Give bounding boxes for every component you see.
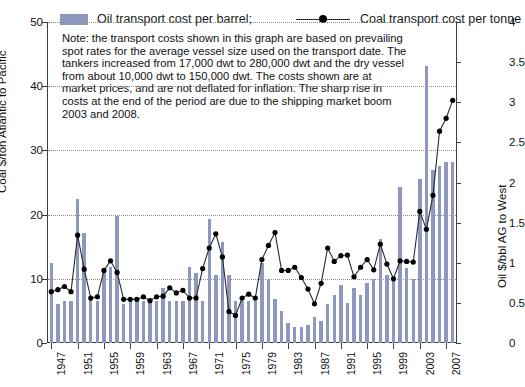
x-axis-tick-label: 1999 xyxy=(397,352,409,375)
data-point xyxy=(62,284,67,289)
data-point xyxy=(167,285,172,290)
data-point xyxy=(351,274,356,279)
data-point xyxy=(213,231,218,236)
data-point xyxy=(365,257,370,262)
x-axis-tick-label: 1967 xyxy=(187,352,199,375)
x-axis-tick xyxy=(367,343,368,349)
data-point xyxy=(437,129,442,134)
data-point xyxy=(305,286,310,291)
y-axis-left-tick-label: 20 xyxy=(30,209,43,221)
x-axis-tick-label: 1991 xyxy=(345,352,357,375)
data-point xyxy=(134,297,139,302)
data-point xyxy=(220,254,225,259)
data-point xyxy=(312,301,317,306)
data-point xyxy=(272,230,277,235)
data-point xyxy=(187,295,192,300)
data-point xyxy=(108,258,113,263)
data-point xyxy=(417,209,422,214)
data-point xyxy=(450,98,455,103)
x-axis-tick-label: 1951 xyxy=(82,352,94,375)
y-axis-right-tick-label: 2 xyxy=(509,177,515,189)
x-axis-tick-label: 1983 xyxy=(292,352,304,375)
x-axis-tick xyxy=(104,343,105,349)
x-axis-tick-label: 1995 xyxy=(371,352,383,375)
data-point xyxy=(259,257,264,262)
x-axis-tick xyxy=(262,343,263,349)
x-axis-tick xyxy=(288,343,289,349)
data-point xyxy=(115,270,120,275)
x-axis-tick xyxy=(209,343,210,349)
y-axis-left-tick-label: 0 xyxy=(37,337,43,349)
data-point xyxy=(68,289,73,294)
y-axis-right-tick-label: 0 xyxy=(509,337,515,349)
data-point xyxy=(279,268,284,273)
data-point xyxy=(325,245,330,250)
x-axis-tick xyxy=(157,343,158,349)
data-point xyxy=(253,295,258,300)
data-point xyxy=(286,268,291,273)
data-point xyxy=(404,259,409,264)
x-axis-tick xyxy=(341,343,342,349)
y-axis-left-tick-label: 30 xyxy=(30,144,43,156)
data-point xyxy=(75,233,80,238)
x-axis-tick-label: 2007 xyxy=(450,352,462,375)
y-axis-left-title: Coal $/ton Atlantic to Pacific xyxy=(0,50,8,193)
data-point xyxy=(391,276,396,281)
coal-line-path xyxy=(51,100,452,315)
x-axis-tick xyxy=(446,343,447,349)
data-point xyxy=(200,266,205,271)
x-axis-tick xyxy=(51,343,52,349)
y-axis-right-tick-label: 3.5 xyxy=(509,56,525,68)
data-point xyxy=(207,245,212,250)
data-point xyxy=(411,260,416,265)
y-axis-right-tick-label: 2.5 xyxy=(509,136,525,148)
line-series-coal-transport-cost xyxy=(47,22,457,343)
y-axis-right-tick-label: 4 xyxy=(509,16,515,28)
data-point xyxy=(193,295,198,300)
data-point xyxy=(345,252,350,257)
data-point xyxy=(233,313,238,318)
data-point xyxy=(397,258,402,263)
y-axis-left-tick-label: 40 xyxy=(30,80,43,92)
data-point xyxy=(128,297,133,302)
x-axis-tick-label: 2003 xyxy=(424,352,436,375)
data-point xyxy=(246,292,251,297)
y-axis-right-tick xyxy=(456,343,461,344)
coal-line-markers xyxy=(49,98,456,318)
data-point xyxy=(49,289,54,294)
x-axis-tick-label: 1979 xyxy=(266,352,278,375)
data-point xyxy=(240,295,245,300)
data-point xyxy=(378,242,383,247)
data-point xyxy=(444,116,449,121)
x-axis-tick xyxy=(130,343,131,349)
data-point xyxy=(55,287,60,292)
data-point xyxy=(95,294,100,299)
data-point xyxy=(101,268,106,273)
data-point xyxy=(82,267,87,272)
data-point xyxy=(141,294,146,299)
y-axis-left-tick-label: 50 xyxy=(30,16,43,28)
y-axis-right-title: Oil $/bbl AG to West xyxy=(496,185,508,288)
plot-area: 01020304050 00.511.522.533.54 1947195119… xyxy=(47,22,457,343)
data-point xyxy=(174,290,179,295)
x-axis-tick-label: 1947 xyxy=(55,352,67,375)
data-point xyxy=(88,295,93,300)
y-axis-right-tick-label: 0.5 xyxy=(509,297,525,309)
data-point xyxy=(430,193,435,198)
data-point xyxy=(299,275,304,280)
data-point xyxy=(371,267,376,272)
x-axis-tick xyxy=(393,343,394,349)
data-point xyxy=(358,265,363,270)
y-axis-right-tick-label: 3 xyxy=(509,96,515,108)
data-point xyxy=(384,261,389,266)
x-axis-tick xyxy=(183,343,184,349)
data-point xyxy=(424,227,429,232)
data-point xyxy=(154,294,159,299)
x-axis-tick-label: 1955 xyxy=(108,352,120,375)
data-point xyxy=(180,288,185,293)
y-axis-right-tick-label: 1.5 xyxy=(509,217,525,229)
x-axis-tick-label: 1975 xyxy=(240,352,252,375)
data-point xyxy=(338,253,343,258)
y-axis-left-tick-label: 10 xyxy=(30,273,43,285)
